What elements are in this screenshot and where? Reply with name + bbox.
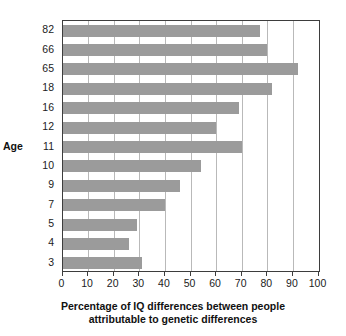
x-tick-mark-60	[215, 272, 216, 276]
gridline-70	[242, 21, 243, 271]
x-tick-mark-70	[241, 272, 242, 276]
x-tick-label-40: 40	[158, 277, 170, 289]
y-axis-label-10: 10	[42, 160, 54, 171]
x-tick-mark-40	[164, 272, 165, 276]
plot-area	[62, 20, 320, 272]
y-axis-label-66: 66	[42, 44, 54, 55]
x-tick-mark-50	[190, 272, 191, 276]
bar	[63, 63, 299, 75]
x-tick-mark-100	[318, 272, 319, 276]
x-tick-label-30: 30	[132, 277, 144, 289]
x-tick-label-100: 100	[309, 277, 327, 289]
x-tick-mark-0	[62, 272, 63, 276]
bar	[63, 238, 130, 250]
x-tick-label-60: 60	[209, 277, 221, 289]
bar	[63, 25, 260, 37]
x-axis-title-line-2: attributable to genetic differences	[0, 313, 346, 326]
bar	[63, 160, 201, 172]
bar	[63, 122, 217, 134]
bar	[63, 219, 137, 231]
y-axis-label-5: 5	[48, 218, 54, 229]
x-tick-label-90: 90	[286, 277, 298, 289]
y-axis-label-12: 12	[42, 121, 54, 132]
y-axis-title: Age	[3, 141, 23, 152]
x-tick-label-50: 50	[184, 277, 196, 289]
bar	[63, 44, 268, 56]
bar	[63, 180, 181, 192]
y-axis-label-16: 16	[42, 102, 54, 113]
x-tick-label-20: 20	[107, 277, 119, 289]
x-tick-label-80: 80	[260, 277, 272, 289]
y-axis-label-7: 7	[48, 199, 54, 210]
x-tick-mark-80	[266, 272, 267, 276]
bar	[63, 257, 142, 269]
y-axis-label-4: 4	[48, 237, 54, 248]
y-axis-label-3: 3	[48, 257, 54, 268]
x-tick-mark-30	[138, 272, 139, 276]
bar	[63, 199, 165, 211]
bar	[63, 141, 242, 153]
x-axis-ticks: 0102030405060708090100	[62, 272, 320, 292]
x-tick-label-0: 0	[59, 277, 65, 289]
y-axis-label-9: 9	[48, 179, 54, 190]
x-tick-label-70: 70	[235, 277, 247, 289]
y-axis-label-82: 82	[42, 24, 54, 35]
bar-chart: 826665181612111097543 Age 01020304050607…	[0, 0, 346, 336]
y-axis-label-11: 11	[43, 141, 54, 152]
x-tick-mark-90	[292, 272, 293, 276]
gridline-90	[293, 21, 294, 271]
x-axis-title-line-1: Percentage of IQ differences between peo…	[0, 300, 346, 313]
bar	[63, 83, 273, 95]
gridline-80	[267, 21, 268, 271]
x-tick-mark-20	[113, 272, 114, 276]
x-tick-label-10: 10	[81, 277, 93, 289]
x-axis-title: Percentage of IQ differences between peo…	[0, 300, 346, 326]
y-axis-label-65: 65	[42, 63, 54, 74]
x-tick-mark-10	[87, 272, 88, 276]
bar	[63, 102, 240, 114]
y-axis-label-18: 18	[42, 82, 54, 93]
